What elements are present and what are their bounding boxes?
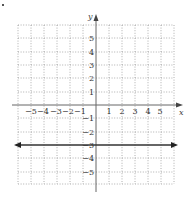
y-tick: −1 xyxy=(82,114,94,123)
left-arrow-icon xyxy=(14,142,21,148)
x-tick: 1 xyxy=(106,107,111,116)
y-tick: −5 xyxy=(82,168,94,177)
y-tick: 2 xyxy=(89,74,94,83)
y-tick: −2 xyxy=(82,128,94,137)
x-tick: 2 xyxy=(119,107,124,116)
x-tick: 5 xyxy=(157,107,162,116)
x-tick: −2 xyxy=(62,107,74,116)
right-arrow-icon xyxy=(171,142,178,148)
y-tick: 3 xyxy=(89,61,94,70)
x-tick: −5 xyxy=(25,107,37,116)
x-tick: −4 xyxy=(37,107,49,116)
y-tick: 1 xyxy=(89,88,94,97)
x-tick: 4 xyxy=(145,107,150,116)
x-tick: −3 xyxy=(50,107,62,116)
y-tick: −4 xyxy=(82,154,94,163)
x-tick: 3 xyxy=(132,107,137,116)
y-tick: 4 xyxy=(89,48,94,57)
x-axis-label: x xyxy=(179,108,184,117)
y-tick: 5 xyxy=(89,34,94,43)
y-axis-label: y xyxy=(87,12,93,21)
coordinate-plane: x y −5 −4 −3 −2 −1 1 2 3 4 5 5 4 3 2 1 −… xyxy=(0,0,192,203)
